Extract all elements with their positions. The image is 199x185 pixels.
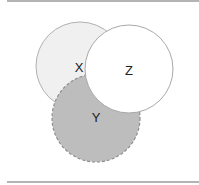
set-z-label: Z — [125, 63, 133, 78]
bottom-divider — [7, 181, 199, 183]
venn-diagram: X Z Y — [0, 0, 199, 185]
set-y-label: Y — [92, 110, 101, 125]
set-x-label: X — [75, 60, 84, 75]
